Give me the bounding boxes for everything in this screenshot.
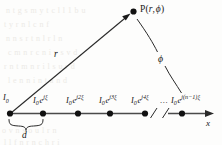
array-element-dot (7, 110, 13, 116)
phased-array-diagram: n t g s m y t c l l 1 b u t y r n l c n … (0, 0, 222, 145)
element-subscript: 0 (174, 100, 177, 106)
radius-label: r (54, 50, 58, 60)
array-element-dot (142, 110, 148, 116)
spacing-brace (9, 120, 43, 131)
array-element-dot (40, 110, 46, 116)
elements-ellipsis: ... (160, 97, 168, 105)
observation-point-label: P(r, ϕ) (140, 5, 164, 15)
array-element-dot (179, 110, 185, 116)
array-element-dot (75, 110, 81, 116)
element-subscript: 0 (6, 98, 9, 104)
element-exponent: j4ξ (141, 93, 148, 100)
angle-reference-line-upper (137, 19, 158, 52)
element-subscript: 0 (102, 100, 105, 106)
element-subscript: 0 (36, 100, 39, 106)
element-label-4: I0 ej4ξ (131, 94, 149, 106)
element-exponent: j3ξ (109, 93, 116, 100)
element-subscript: 0 (69, 100, 72, 106)
element-exponent: j(n−1)ξ (181, 93, 200, 100)
x-axis-arrowhead (205, 110, 214, 117)
element-label-2: I0 ej2ξ (66, 94, 84, 106)
element-exponent: jξ (43, 93, 47, 100)
x-axis-label: x (206, 119, 210, 128)
axis-break-slash (151, 108, 158, 118)
observation-point-dot (130, 8, 136, 14)
element-subscript: 0 (134, 100, 137, 106)
diagram-vector-layer (0, 0, 222, 145)
element-label-0: I0 (3, 94, 9, 104)
element-exponent: j2ξ (76, 93, 83, 100)
angle-label: ϕ (158, 54, 163, 64)
angle-reference-line-lower (165, 66, 182, 93)
element-label-5: I0 ej(n−1)ξ (171, 94, 200, 106)
element-label-1: I0 ejξ (33, 94, 48, 106)
close-paren: ) (161, 4, 164, 14)
array-element-dot (107, 110, 113, 116)
element-label-3: I0 ej3ξ (99, 94, 117, 106)
spacing-label: d (22, 131, 27, 141)
comma: , (152, 4, 154, 14)
